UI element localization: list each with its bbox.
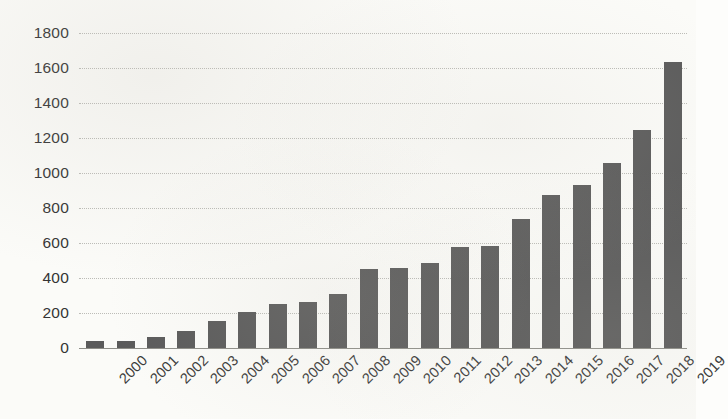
x-axis-tick-label: 2004	[237, 352, 272, 387]
bar	[512, 219, 530, 349]
bar	[86, 341, 104, 348]
x-axis-tick-label: 2015	[572, 352, 607, 387]
bar	[147, 337, 165, 348]
x-axis-tick-label: 2003	[207, 352, 242, 387]
x-axis-tick-label: 2008	[359, 352, 394, 387]
y-axis-tick-label: 1800	[9, 24, 69, 42]
y-axis-tick-label: 200	[9, 304, 69, 322]
y-axis-tick-label: 1600	[9, 59, 69, 77]
x-axis-tick-labels: 2000200120022003200420052006200720082009…	[79, 352, 687, 416]
bar	[542, 195, 560, 348]
bar	[360, 269, 378, 348]
bar	[177, 331, 195, 349]
bar	[633, 130, 651, 348]
bar	[299, 302, 317, 348]
y-axis-tick-label: 1000	[9, 164, 69, 182]
bar	[573, 185, 591, 348]
y-axis-tick-label: 600	[9, 234, 69, 252]
x-axis-tick-label: 2018	[663, 352, 698, 387]
bar	[208, 321, 226, 348]
y-axis-tick-label: 400	[9, 269, 69, 287]
x-axis-tick-label: 2000	[116, 352, 151, 387]
bar	[329, 294, 347, 348]
bar	[481, 246, 499, 348]
x-axis-tick-label: 2007	[329, 352, 364, 387]
bar	[238, 312, 256, 348]
x-axis-tick-label: 2016	[602, 352, 637, 387]
x-axis-tick-label: 2006	[298, 352, 333, 387]
x-axis-tick-label: 2014	[541, 352, 576, 387]
y-axis-tick-label: 0	[9, 339, 69, 357]
x-axis-tick-label: 2002	[177, 352, 212, 387]
y-axis-tick-label: 1200	[9, 129, 69, 147]
x-axis-tick-label: 2009	[389, 352, 424, 387]
plot-area	[79, 33, 687, 348]
bar	[603, 163, 621, 349]
bar	[117, 341, 135, 348]
bar	[421, 263, 439, 348]
x-axis-tick-label: 2017	[633, 352, 668, 387]
y-axis-tick-label: 1400	[9, 94, 69, 112]
x-axis-tick-label: 2012	[481, 352, 516, 387]
x-axis-tick-label: 2010	[420, 352, 455, 387]
bar	[269, 304, 287, 348]
x-axis-tick-label: 2019	[693, 352, 728, 387]
x-axis-tick-label: 2005	[268, 352, 303, 387]
bar	[451, 247, 469, 348]
bar	[664, 62, 682, 348]
x-axis-tick-label: 2001	[146, 352, 181, 387]
bar	[390, 268, 408, 348]
x-axis-tick-label: 2013	[511, 352, 546, 387]
x-axis-tick-label: 2011	[450, 352, 484, 386]
bars-group	[79, 33, 687, 348]
y-axis-tick-label: 800	[9, 199, 69, 217]
axis-baseline	[79, 348, 687, 349]
